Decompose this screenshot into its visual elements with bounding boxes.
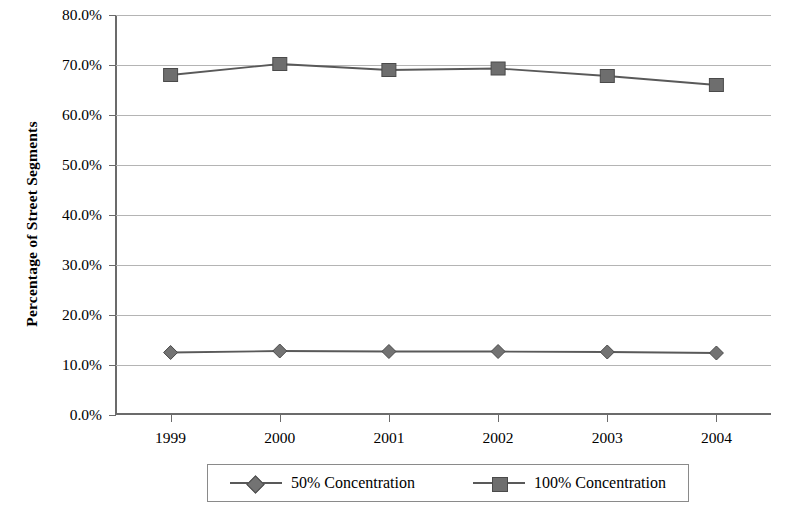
diamond-marker bbox=[491, 345, 505, 359]
x-axis-tick bbox=[171, 415, 172, 422]
series-layer bbox=[116, 15, 771, 415]
y-tick-label: 80.0% bbox=[62, 6, 102, 24]
plot-area: 0.0%10.0%20.0%30.0%40.0%50.0%60.0%70.0%8… bbox=[116, 15, 771, 415]
series-line-1 bbox=[171, 64, 717, 85]
x-axis-tick bbox=[498, 415, 499, 422]
y-axis-tick bbox=[109, 315, 116, 316]
line-chart: Percentage of Street Segments 0.0%10.0%2… bbox=[0, 0, 789, 515]
y-tick-label: 60.0% bbox=[62, 106, 102, 124]
y-tick-label: 50.0% bbox=[62, 156, 102, 174]
diamond-marker bbox=[382, 345, 396, 359]
x-axis-tick bbox=[389, 415, 390, 422]
legend-label-50: 50% Concentration bbox=[291, 474, 415, 492]
x-axis-tick bbox=[280, 415, 281, 422]
y-axis-tick bbox=[109, 65, 116, 66]
y-axis-tick bbox=[109, 15, 116, 16]
legend-item-100[interactable]: 100% Concentration bbox=[473, 474, 666, 492]
y-axis-title: Percentage of Street Segments bbox=[23, 74, 41, 374]
legend-label-100: 100% Concentration bbox=[534, 474, 666, 492]
diamond-marker-icon bbox=[230, 475, 282, 491]
y-tick-label: 40.0% bbox=[62, 206, 102, 224]
y-axis-tick bbox=[109, 365, 116, 366]
square-marker bbox=[491, 62, 505, 75]
square-marker bbox=[600, 70, 614, 83]
y-tick-label: 10.0% bbox=[62, 356, 102, 374]
y-tick-label: 20.0% bbox=[62, 306, 102, 324]
square-marker bbox=[382, 64, 396, 77]
x-tick-label: 2004 bbox=[701, 429, 732, 447]
x-axis-tick bbox=[716, 415, 717, 422]
y-axis-tick bbox=[109, 165, 116, 166]
x-tick-label: 2002 bbox=[483, 429, 514, 447]
x-axis-tick bbox=[607, 415, 608, 422]
y-tick-label: 70.0% bbox=[62, 56, 102, 74]
chart-legend: 50% Concentration 100% Concentration bbox=[207, 464, 689, 502]
y-tick-label: 30.0% bbox=[62, 256, 102, 274]
y-axis-tick bbox=[109, 115, 116, 116]
x-tick-label: 2000 bbox=[264, 429, 295, 447]
legend-item-50[interactable]: 50% Concentration bbox=[230, 474, 415, 492]
square-marker bbox=[709, 79, 723, 92]
x-tick-label: 1999 bbox=[155, 429, 186, 447]
diamond-marker bbox=[709, 346, 723, 360]
y-axis-tick bbox=[109, 415, 116, 416]
square-marker bbox=[164, 69, 178, 82]
diamond-marker bbox=[273, 344, 287, 358]
square-marker-icon bbox=[473, 475, 525, 491]
y-axis-tick bbox=[109, 265, 116, 266]
x-tick-label: 2001 bbox=[373, 429, 404, 447]
series-line-0 bbox=[171, 351, 717, 353]
y-axis-tick bbox=[109, 215, 116, 216]
square-marker bbox=[273, 58, 287, 71]
x-tick-label: 2003 bbox=[592, 429, 623, 447]
diamond-marker bbox=[164, 346, 178, 360]
y-tick-label: 0.0% bbox=[70, 406, 102, 424]
diamond-marker bbox=[600, 345, 614, 359]
